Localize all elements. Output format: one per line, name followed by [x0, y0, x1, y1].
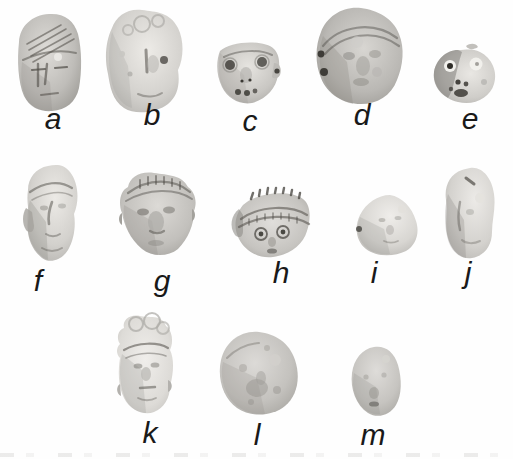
figurine-photo-c	[210, 35, 284, 107]
figurine-label-b: b	[144, 100, 161, 130]
figurine-photo-d	[313, 6, 406, 107]
figurine-label-h: h	[273, 258, 290, 288]
figurine-photo-k	[110, 310, 182, 417]
figurine-label-m: m	[361, 420, 386, 450]
figurine-label-c: c	[243, 106, 258, 136]
figurine-label-e: e	[462, 104, 479, 134]
figurine-label-f: f	[34, 266, 42, 296]
figurine-label-k: k	[143, 418, 158, 448]
figurine-label-a: a	[45, 104, 62, 134]
figurine-photo-g	[114, 165, 198, 260]
figurine-label-g: g	[154, 266, 171, 296]
figurine-label-j: j	[465, 258, 472, 288]
figurine-label-l: l	[254, 420, 261, 450]
figurine-photo-l	[215, 328, 301, 419]
figurine-label-i: i	[371, 258, 378, 288]
figurine-photo-i	[350, 189, 423, 259]
figurine-label-d: d	[354, 100, 371, 130]
figurine-photo-a	[14, 12, 84, 113]
figurine-photo-e	[428, 42, 500, 106]
figurine-photo-m	[346, 343, 404, 419]
figurine-photo-h	[227, 183, 313, 267]
figure-plate: a b c	[0, 0, 513, 459]
figurine-photo-f	[18, 160, 88, 264]
scan-artifact-strip	[0, 453, 513, 457]
figurine-photo-j	[434, 164, 500, 263]
